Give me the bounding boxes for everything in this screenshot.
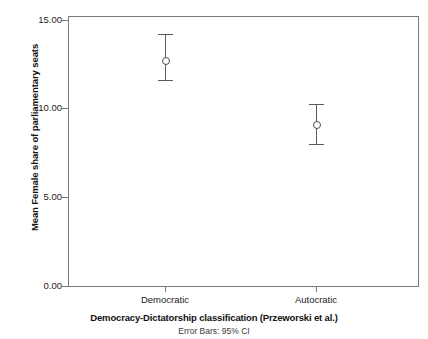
error-bar-lower-cap — [158, 80, 173, 81]
data-point-marker — [313, 121, 321, 129]
error-bar-lower-cap — [309, 144, 324, 145]
x-tick-label-democratic: Democratic — [105, 294, 225, 305]
error-bar-chart: Mean Female share of parliamentary seats… — [0, 0, 428, 339]
y-tick-label-10: 10.00 — [28, 103, 62, 113]
y-tick-label-5: 5.00 — [28, 192, 62, 202]
error-bars-footnote: Error Bars: 95% CI — [0, 326, 428, 336]
y-tick-label-0: 0.00 — [28, 281, 62, 291]
x-tick-label-autocratic: Autocratic — [256, 294, 376, 305]
y-tick-label-group: 15.00 10.00 5.00 0.00 — [28, 0, 62, 339]
x-tick-mark-democratic — [165, 287, 166, 292]
plot-area — [68, 16, 419, 287]
y-tick-label-15: 15.00 — [28, 15, 62, 25]
x-axis-title: Democracy-Dictatorship classification (P… — [0, 312, 428, 323]
data-point-marker — [162, 57, 170, 65]
x-tick-mark-autocratic — [316, 287, 317, 292]
